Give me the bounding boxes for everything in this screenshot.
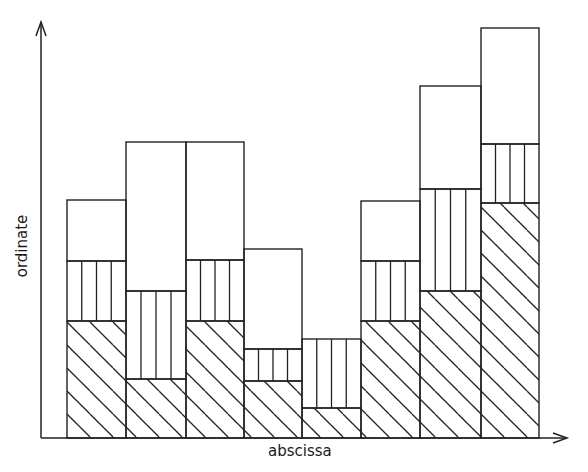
bar-segment-none bbox=[481, 28, 539, 144]
bar-segment-diagonal bbox=[67, 321, 126, 438]
bar-segment-vertical bbox=[420, 189, 481, 291]
bar-5 bbox=[302, 339, 361, 438]
bar-segment-vertical bbox=[186, 260, 244, 321]
bar-segment-vertical bbox=[67, 261, 126, 321]
bars-group bbox=[67, 28, 539, 438]
bar-1 bbox=[67, 200, 126, 438]
bar-segment-none bbox=[361, 201, 420, 261]
bar-8 bbox=[481, 28, 539, 438]
bar-segment-vertical bbox=[126, 291, 186, 379]
bar-segment-diagonal bbox=[244, 381, 302, 438]
bar-4 bbox=[244, 249, 302, 438]
bar-segment-vertical bbox=[302, 339, 361, 408]
bar-segment-diagonal bbox=[302, 408, 361, 438]
bar-6 bbox=[361, 201, 420, 438]
bar-segment-none bbox=[126, 142, 186, 291]
bar-segment-vertical bbox=[244, 349, 302, 381]
bar-segment-none bbox=[186, 142, 244, 260]
bar-3 bbox=[186, 142, 244, 438]
bar-segment-diagonal bbox=[361, 321, 420, 438]
bar-segment-diagonal bbox=[481, 203, 539, 438]
bar-7 bbox=[420, 86, 481, 438]
bar-segment-none bbox=[244, 249, 302, 349]
y-axis-label: ordinate bbox=[13, 215, 31, 278]
bar-segment-diagonal bbox=[126, 379, 186, 438]
bar-segment-none bbox=[420, 86, 481, 189]
bar-segment-diagonal bbox=[420, 291, 481, 438]
x-axis-label: abscissa bbox=[268, 442, 332, 460]
stacked-bar-chart bbox=[0, 0, 588, 472]
bar-segment-vertical bbox=[481, 144, 539, 203]
bar-segment-vertical bbox=[361, 261, 420, 321]
bar-segment-none bbox=[67, 200, 126, 261]
bar-2 bbox=[126, 142, 186, 438]
bar-segment-diagonal bbox=[186, 321, 244, 438]
